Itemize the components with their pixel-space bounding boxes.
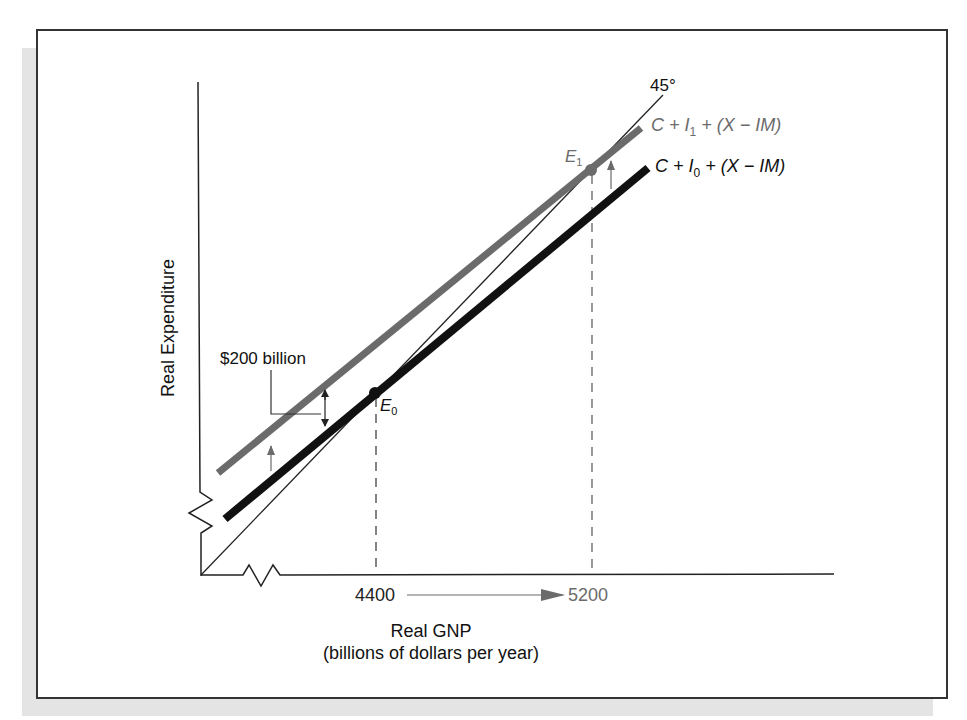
y-axis-label: Real Expenditure <box>158 259 178 397</box>
shift-annotation-label: $200 billion <box>220 349 306 368</box>
x-axis-label: Real GNP <box>390 621 471 641</box>
equilibrium-point-e1 <box>585 164 597 176</box>
x-axis-sublabel: (billions of dollars per year) <box>323 643 539 663</box>
x-tick-4400: 4400 <box>355 585 395 605</box>
figure-canvas: 45° E0 E1 C + I1 + (X − IM) C + I0 + (X … <box>0 0 967 720</box>
forty-five-degree-label: 45° <box>650 76 676 95</box>
x-tick-5200: 5200 <box>568 585 608 605</box>
